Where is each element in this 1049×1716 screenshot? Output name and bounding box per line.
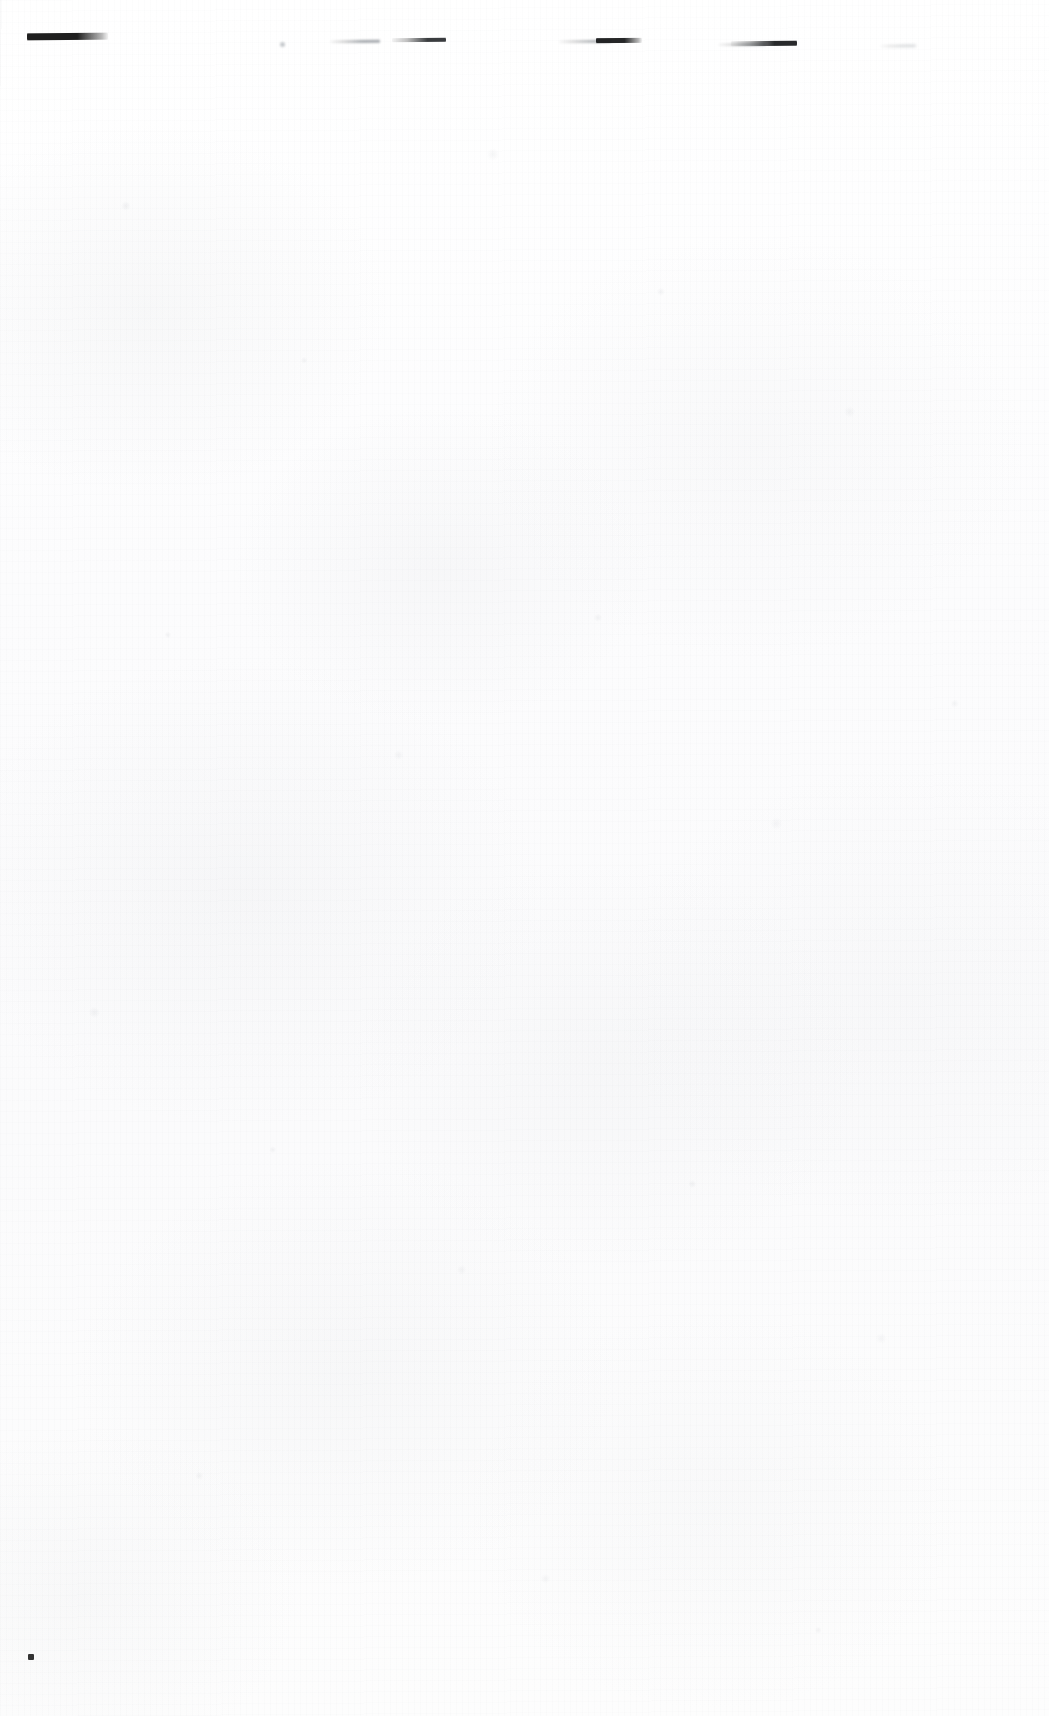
ink-dot-bottom-left [28,1654,34,1660]
ink-dot-layer [0,0,1049,1716]
scanned-page [0,0,1049,1716]
